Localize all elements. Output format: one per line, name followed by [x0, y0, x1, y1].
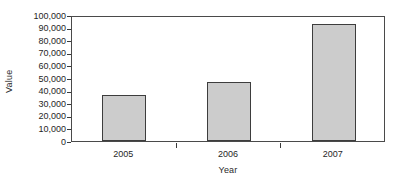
bar-slot — [281, 17, 386, 141]
y-axis-tick-label: 20,000 — [14, 112, 66, 121]
x-axis-title: Year — [71, 166, 385, 175]
y-axis-tick-label: 80,000 — [14, 37, 66, 46]
bar-2007[interactable] — [312, 24, 356, 141]
bars-layer — [72, 17, 384, 141]
y-axis-tick-label: 100,000 — [14, 12, 66, 21]
x-axis-tick-mark — [280, 143, 281, 148]
plot-area — [71, 16, 385, 142]
x-axis-tick-label: 2006 — [176, 150, 281, 159]
x-axis-tick-label: 2005 — [71, 150, 176, 159]
y-axis-tick-mark — [67, 142, 71, 143]
bar-chart-figure: Value 010,00020,00030,00040,00050,00060,… — [0, 0, 402, 181]
y-axis-tick-label: 50,000 — [14, 75, 66, 84]
y-axis-tick-mark — [67, 104, 71, 105]
bar-2005[interactable] — [102, 95, 146, 141]
y-axis-tick-label-group: 010,00020,00030,00040,00050,00060,00070,… — [14, 0, 66, 181]
bar-slot — [177, 17, 282, 141]
bar-slot — [72, 17, 177, 141]
y-axis-tick-mark — [67, 66, 71, 67]
y-axis-tick-mark — [67, 117, 71, 118]
y-axis-tick-mark — [67, 79, 71, 80]
x-axis-tick-label: 2007 — [280, 150, 385, 159]
y-axis-tick-mark — [67, 16, 71, 17]
y-axis-tick-mark — [67, 129, 71, 130]
y-axis-tick-label: 30,000 — [14, 100, 66, 109]
y-axis-tick-label: 70,000 — [14, 49, 66, 58]
y-axis-tick-label: 60,000 — [14, 62, 66, 71]
y-axis-tick-mark — [67, 41, 71, 42]
y-axis-tick-mark — [67, 54, 71, 55]
y-axis-tick-label: 10,000 — [14, 125, 66, 134]
y-axis-tick-mark — [67, 29, 71, 30]
y-axis-tick-mark — [67, 92, 71, 93]
y-axis-tick-label: 0 — [14, 138, 66, 147]
y-axis-tick-label: 40,000 — [14, 87, 66, 96]
bar-2006[interactable] — [207, 82, 251, 141]
x-axis-tick-mark — [176, 143, 177, 148]
y-axis-tick-label: 90,000 — [14, 24, 66, 33]
